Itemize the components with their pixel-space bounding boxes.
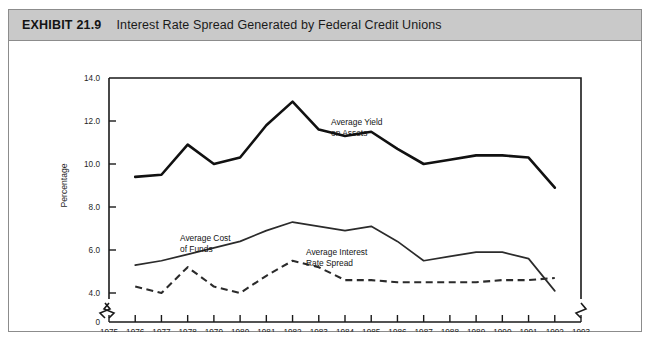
- annotation-average-interest-rate-spread: Average InterestRate Spread: [306, 247, 368, 268]
- y-tick-label: 8.0: [89, 203, 101, 212]
- chart-plot-area: 4.06.08.010.012.014.00Percentage19751976…: [9, 41, 643, 332]
- exhibit-title: Interest Rate Spread Generated by Federa…: [117, 18, 442, 32]
- x-tick-label: 1992: [546, 328, 565, 332]
- x-tick-label: 1980: [231, 328, 250, 332]
- exhibit-number: EXHIBIT 21.9: [22, 18, 102, 32]
- x-tick-label: 1986: [388, 328, 407, 332]
- x-tick-label: 1990: [493, 328, 512, 332]
- x-tick-label: 1979: [205, 328, 224, 332]
- annotation-average-cost-of-funds: Average Costof Funds: [180, 233, 231, 254]
- series-line-average-yield-on-assets: [135, 102, 555, 188]
- y-tick-label: 14.0: [84, 74, 100, 83]
- y-tick-label: 10.0: [84, 160, 100, 169]
- exhibit-header: EXHIBIT 21.9 Interest Rate Spread Genera…: [9, 10, 641, 41]
- y-tick-label-zero: 0: [95, 318, 100, 327]
- y-axis-title: Percentage: [59, 163, 69, 207]
- x-tick-label: 1985: [362, 328, 381, 332]
- x-tick-label: 1988: [441, 328, 460, 332]
- annotation-average-cost-of-funds-line1: Average Cost: [180, 233, 231, 243]
- annotation-average-yield-on-assets-line2: on Assets: [331, 128, 367, 138]
- x-tick-label: 1975: [100, 328, 119, 332]
- annotation-average-interest-rate-spread-line2: Rate Spread: [306, 258, 353, 268]
- y-tick-label: 12.0: [84, 117, 100, 126]
- annotation-average-cost-of-funds-line2: of Funds: [180, 244, 213, 254]
- annotation-average-interest-rate-spread-line1: Average Interest: [306, 247, 368, 257]
- y-tick-label: 4.0: [89, 289, 101, 298]
- x-tick-label: 1984: [336, 328, 355, 332]
- x-tick-label: 1978: [179, 328, 198, 332]
- x-tick-label: 1983: [310, 328, 329, 332]
- exhibit-frame: EXHIBIT 21.9 Interest Rate Spread Genera…: [8, 9, 642, 332]
- exhibit-page: EXHIBIT 21.9 Interest Rate Spread Genera…: [0, 0, 657, 349]
- line-chart: 4.06.08.010.012.014.00Percentage19751976…: [9, 41, 643, 332]
- y-tick-label: 6.0: [89, 246, 101, 255]
- x-tick-label: 1987: [415, 328, 434, 332]
- annotation-average-yield-on-assets-line1: Average Yield: [331, 117, 383, 127]
- x-tick-label: 1976: [126, 328, 145, 332]
- x-tick-label: 1982: [283, 328, 302, 332]
- x-tick-label: 1977: [152, 328, 171, 332]
- x-tick-label: 1989: [467, 328, 486, 332]
- x-tick-label: 1991: [519, 328, 538, 332]
- x-tick-label: 1981: [257, 328, 276, 332]
- x-tick-label: 1993: [572, 328, 591, 332]
